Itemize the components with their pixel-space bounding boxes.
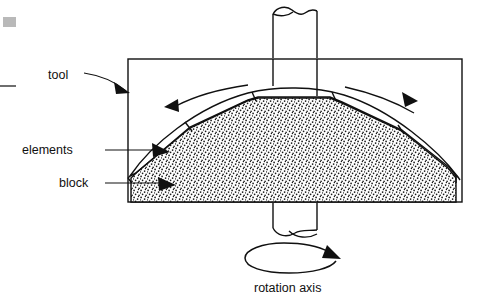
label-tool: tool bbox=[48, 68, 68, 82]
label-rotation-axis: rotation axis bbox=[254, 281, 321, 295]
scan-artifact-dash bbox=[0, 85, 16, 87]
block-workpiece bbox=[131, 98, 456, 202]
diagram-canvas: tool elements block rotation axis bbox=[0, 0, 486, 307]
rotation-arrow bbox=[245, 243, 341, 273]
label-block: block bbox=[59, 176, 89, 190]
leader-tool bbox=[84, 73, 130, 94]
shaft-inside-tool bbox=[273, 59, 317, 96]
label-elements: elements bbox=[22, 143, 73, 157]
rotation-shaft bbox=[273, 7, 317, 58]
shaft-lower bbox=[273, 203, 317, 237]
figure-root: tool elements block rotation axis bbox=[0, 0, 486, 307]
scan-artifact-square bbox=[3, 17, 16, 27]
